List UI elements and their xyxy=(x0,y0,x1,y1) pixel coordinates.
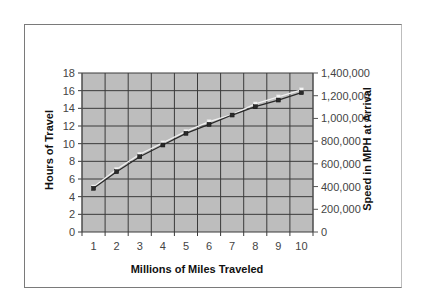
y-axis-left: 024681012141618 xyxy=(63,67,75,238)
y-axis-left-title: Hours of Travel xyxy=(43,110,55,190)
y-tick-label: 18 xyxy=(63,67,75,79)
y2-tick-label: 1,400,000 xyxy=(321,67,370,79)
y-tick-label: 6 xyxy=(69,173,75,185)
x-tick-label: 8 xyxy=(252,240,258,252)
data-point-marker xyxy=(184,131,188,135)
data-point-marker xyxy=(138,155,142,159)
data-point-marker xyxy=(161,143,165,147)
x-axis: 12345678910 xyxy=(90,240,307,252)
y-tick-label: 2 xyxy=(69,208,75,220)
y2-tick-label: 0 xyxy=(321,226,327,238)
y-tick-label: 16 xyxy=(63,85,75,97)
y2-tick-label: 400,000 xyxy=(321,181,361,193)
y-tick-label: 0 xyxy=(69,226,75,238)
x-tick-label: 9 xyxy=(275,240,281,252)
y-tick-label: 8 xyxy=(69,155,75,167)
data-point-marker xyxy=(276,98,280,102)
y-tick-label: 10 xyxy=(63,138,75,150)
x-tick-label: 1 xyxy=(90,240,96,252)
data-point-marker xyxy=(299,91,303,95)
x-tick-label: 3 xyxy=(137,240,143,252)
x-tick-label: 2 xyxy=(114,240,120,252)
data-point-marker xyxy=(253,105,257,109)
x-axis-title: Millions of Miles Traveled xyxy=(131,263,264,275)
data-point-marker xyxy=(115,170,119,174)
line-chart: 024681012141618 0200,000400,000600,00080… xyxy=(0,0,427,303)
data-point-marker xyxy=(230,113,234,117)
y-tick-label: 4 xyxy=(69,191,75,203)
data-point-marker xyxy=(207,122,211,126)
x-tick-label: 6 xyxy=(206,240,212,252)
data-point-marker xyxy=(92,186,96,190)
x-tick-label: 10 xyxy=(295,240,307,252)
x-tick-label: 4 xyxy=(160,240,166,252)
y-tick-label: 14 xyxy=(63,102,75,114)
y2-tick-label: 600,000 xyxy=(321,158,361,170)
x-tick-label: 5 xyxy=(183,240,189,252)
x-tick-label: 7 xyxy=(229,240,235,252)
y2-tick-label: 200,000 xyxy=(321,203,361,215)
y-tick-label: 12 xyxy=(63,120,75,132)
y2-tick-label: 800,000 xyxy=(321,135,361,147)
y-axis-right-title: Speed in MPH at Arrival xyxy=(361,87,373,211)
